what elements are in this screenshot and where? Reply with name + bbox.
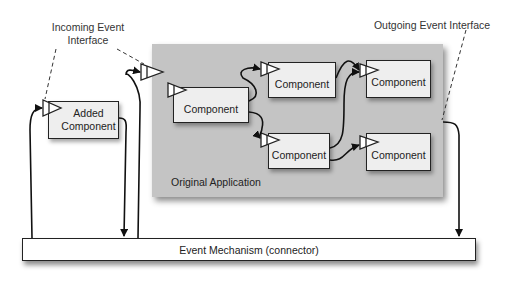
component-4-label: Component: [371, 76, 425, 89]
incoming-leader-to-added: [45, 49, 56, 99]
incoming-callout-line2: Interface: [48, 34, 128, 47]
incoming-callout-line1: Incoming Event: [48, 21, 128, 34]
added-component-label-line1: Added: [61, 107, 115, 120]
component-1-label: Component: [184, 103, 238, 116]
component-5-label: Component: [371, 149, 425, 162]
component-4[interactable]: Component: [366, 60, 431, 98]
added-component-label-line2: Component: [61, 120, 115, 133]
event-mechanism-connector[interactable]: Event Mechanism (connector): [22, 238, 476, 261]
added-component[interactable]: Added Component: [48, 101, 119, 139]
edge-added-to-bus: [119, 118, 126, 236]
edge-app-to-bus: [443, 122, 459, 236]
outgoing-leader: [442, 30, 466, 120]
outgoing-event-interface-callout: Outgoing Event Interface: [370, 19, 494, 32]
original-application-label: Original Application: [171, 176, 261, 188]
incoming-leader-to-app: [117, 49, 144, 64]
component-2-label: Component: [275, 78, 329, 91]
component-5[interactable]: Component: [366, 133, 431, 171]
edge-bus-to-app: [126, 70, 140, 238]
outgoing-callout-label: Outgoing Event Interface: [370, 19, 494, 32]
component-3[interactable]: Component: [268, 133, 330, 169]
incoming-event-interface-callout: Incoming Event Interface: [48, 21, 128, 47]
component-3-label: Component: [272, 149, 326, 162]
component-1[interactable]: Component: [173, 87, 249, 123]
edge-bus-to-added: [30, 108, 42, 238]
event-mechanism-label: Event Mechanism (connector): [179, 244, 318, 256]
component-2[interactable]: Component: [268, 62, 336, 98]
